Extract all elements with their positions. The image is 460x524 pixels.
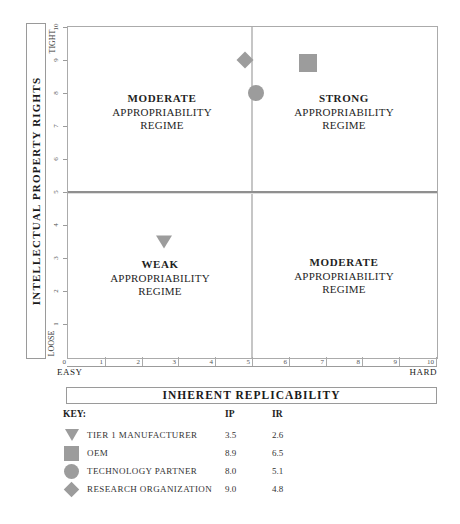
x-axis-max-label: HARD [397,367,437,377]
x-tick-label-8: 8 [346,358,360,366]
key-row-ir-value: 6.5 [272,448,298,458]
y-axis-title: INTELLECTUAL PROPERTY RIGHTS [30,77,42,305]
y-tick-label-2: 2 [50,285,61,297]
y-tick-label-9: 9 [50,54,61,66]
quadrant-strength: MODERATE [87,92,237,106]
y-axis-title-box: INTELLECTUAL PROPERTY RIGHTS [26,23,46,359]
y-tick-label-7: 7 [50,120,61,132]
x-tick-mark-7 [326,357,327,366]
x-tick-mark-10 [436,357,437,366]
quadrant-word: APPROPRIABILITY [87,106,237,120]
x-tick-mark-6 [289,357,290,366]
quadrant-label-top-left: MODERATE APPROPRIABILITY REGIME [87,92,237,133]
key-row-ir-value: 2.6 [272,430,298,440]
x-tick-mark-9 [399,357,400,366]
quadrant-word: REGIME [87,119,237,133]
quadrant-word: APPROPRIABILITY [85,272,235,286]
quadrant-word: REGIME [269,119,419,133]
key-row-label: TECHNOLOGY PARTNER [87,466,197,476]
key-row-label: TIER 1 MANUFACTURER [87,430,197,440]
quadrant-word: APPROPRIABILITY [269,106,419,120]
x-tick-label-5: 5 [236,358,250,366]
y-tick-label-3: 3 [50,252,61,264]
key-heading: KEY: [63,409,86,419]
x-tick-label-2: 2 [126,358,140,366]
x-tick-label-9: 9 [383,358,397,366]
y-tick-label-4: 4 [50,219,61,231]
x-tick-label-7: 7 [310,358,324,366]
quadrant-word: REGIME [85,285,235,299]
y-tick-label-8: 8 [50,87,61,99]
x-axis-title: INHERENT REPLICABILITY [162,389,340,401]
triangle-down-icon [63,427,80,443]
quadrant-word: REGIME [269,283,419,297]
quadrant-strength: STRONG [269,92,419,106]
y-tick-label-1: 1 [50,318,61,330]
x-tick-label-6: 6 [273,358,287,366]
quadrant-strength: MODERATE [269,256,419,270]
x-tick-label-4: 4 [199,358,213,366]
key-row-ip-value: 8.0 [225,466,251,476]
quadrant-strength: WEAK [85,258,235,272]
y-tick-label-6: 6 [50,153,61,165]
key-row-ip-value: 3.5 [225,430,251,440]
key-row-ip-value: 9.0 [225,484,251,494]
x-tick-mark-3 [178,357,179,366]
x-tick-label-10: 10 [420,358,434,366]
quadrant-label-bottom-left: WEAK APPROPRIABILITY REGIME [85,258,235,299]
x-axis-title-box: INHERENT REPLICABILITY [66,387,437,404]
key-legend: KEY: IP IR TIER 1 MANUFACTURER 3.5 2.6 O… [63,407,323,507]
x-tick-mark-5 [252,357,253,366]
x-tick-label-3: 3 [162,358,176,366]
circle-icon [248,85,264,101]
x-tick-mark-1 [105,357,106,366]
key-column-ip: IP [225,409,251,419]
y-axis-ticks: 12345678910 [50,26,67,357]
x-tick-mark-4 [215,357,216,366]
y-tick-label-10: 10 [50,21,61,33]
key-row-ir-value: 5.1 [272,466,298,476]
key-row-label: RESEARCH ORGANIZATION [87,484,212,494]
y-tick-label-5: 5 [50,186,61,198]
key-row-ip-value: 8.9 [225,448,251,458]
circle-icon [63,463,80,479]
quadrant-label-top-right: STRONG APPROPRIABILITY REGIME [269,92,419,133]
key-row-label: OEM [87,448,108,458]
diamond-icon [63,481,80,497]
key-row-research-organization: RESEARCH ORGANIZATION 9.0 4.8 [63,481,323,498]
x-axis-min-label: EASY [57,367,83,377]
key-row-ir-value: 4.8 [272,484,298,494]
x-tick-label-1: 1 [89,358,103,366]
x-tick-label-0: 0 [52,358,66,366]
plot-area: MODERATE APPROPRIABILITY REGIME STRONG A… [67,26,438,359]
square-icon [63,445,80,461]
x-axis-ticks: 012345678910 [67,357,437,367]
horizontal-quadrant-divider-shadow [68,193,437,194]
quadrant-label-bottom-right: MODERATE APPROPRIABILITY REGIME [269,256,419,297]
square-icon [299,54,317,72]
key-column-ir: IR [272,409,298,419]
x-tick-mark-8 [362,357,363,366]
quadrant-word: APPROPRIABILITY [269,270,419,284]
key-row-tier1-manufacturer: TIER 1 MANUFACTURER 3.5 2.6 [63,427,323,444]
appropriability-regime-chart: INTELLECTUAL PROPERTY RIGHTS TIGHT LOOSE… [0,0,460,524]
x-tick-mark-2 [142,357,143,366]
key-row-oem: OEM 8.9 6.5 [63,445,323,462]
triangle-down-icon [156,236,172,249]
key-row-technology-partner: TECHNOLOGY PARTNER 8.0 5.1 [63,463,323,480]
